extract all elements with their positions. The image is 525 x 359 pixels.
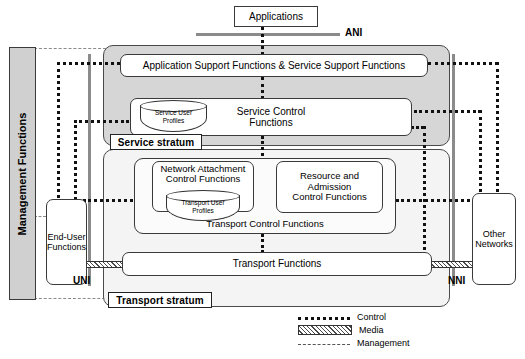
end-user-functions-label-line1: End-User	[47, 232, 86, 242]
ani-reference-line	[196, 33, 340, 36]
racf-label-line3: Control Functions	[292, 192, 366, 203]
applications-box[interactable]: Applications	[234, 6, 318, 27]
management-functions-box[interactable]: Management Functions	[9, 47, 36, 300]
applications-label: Applications	[249, 11, 303, 23]
management-line-swatch	[298, 344, 350, 345]
other-networks-box[interactable]: Other Networks	[472, 193, 516, 285]
legend-label-media: Media	[359, 325, 384, 335]
uni-label: UNI	[73, 275, 90, 286]
legend-label-management: Management	[357, 338, 410, 348]
legend-item-management: Management	[298, 336, 498, 349]
nni-label: NNI	[448, 275, 465, 286]
transport-functions-label: Transport Functions	[233, 258, 322, 270]
transport-functions-box[interactable]: Transport Functions	[122, 252, 432, 276]
end-user-functions-box[interactable]: End-User Functions	[46, 199, 87, 285]
service-user-profiles-line2: Profiles	[140, 117, 207, 125]
transport-stratum-tag-label: Transport stratum	[116, 295, 203, 306]
control-line-swatch	[298, 317, 350, 320]
transport-stratum-tag[interactable]: Transport stratum	[108, 292, 212, 308]
other-networks-label-line2: Networks	[475, 239, 513, 249]
control-path-support-to-service-control	[261, 77, 264, 99]
service-control-functions-label-line1: Service Control	[237, 106, 305, 118]
transport-user-profiles-cylinder[interactable]: Transport User Profiles	[166, 190, 240, 221]
control-path-service-control-left-down	[74, 120, 77, 205]
media-hatch-swatch	[298, 325, 352, 335]
transport-user-profiles-label: Transport User Profiles	[166, 199, 240, 215]
control-path-support-right	[428, 62, 498, 65]
transport-user-profiles-line1: Transport User	[166, 199, 240, 207]
application-support-functions-label: Application Support Functions & Service …	[143, 60, 405, 72]
control-path-transport-control-to-transport-functions	[261, 234, 264, 253]
application-support-functions-box[interactable]: Application Support Functions & Service …	[120, 54, 428, 77]
nacf-label-line2: Control Functions	[160, 174, 245, 185]
resource-admission-control-functions-box[interactable]: Resource and Admission Control Functions	[276, 161, 383, 213]
management-functions-label: Management Functions	[17, 112, 29, 235]
transport-user-profiles-line2: Profiles	[166, 207, 240, 215]
service-user-profiles-line1: Service User	[140, 109, 207, 117]
control-path-service-control-stub-down	[423, 126, 426, 256]
ani-label: ANI	[345, 27, 362, 38]
nni-reference-line	[452, 54, 455, 286]
control-path-service-control-right	[414, 110, 481, 113]
service-control-functions-label-line2: Functions	[237, 117, 305, 129]
legend-item-media: Media	[298, 323, 498, 336]
management-link-top	[34, 48, 106, 49]
control-path-applications-to-support	[261, 27, 264, 55]
other-networks-label-line1: Other	[475, 229, 513, 239]
transport-control-functions-label: Transport Control Functions	[134, 218, 396, 229]
end-user-functions-label-line2: Functions	[47, 242, 86, 252]
service-user-profiles-cylinder[interactable]: Service User Profiles	[140, 100, 207, 132]
diagram-canvas: Management Functions Applications ANI	[0, 0, 525, 359]
legend-item-control: Control	[298, 310, 498, 323]
service-user-profiles-label: Service User Profiles	[140, 109, 207, 125]
racf-label-line1: Resource and	[292, 171, 366, 182]
service-stratum-tag-label: Service stratum	[118, 137, 195, 148]
control-path-service-control-left	[74, 120, 129, 123]
legend-label-control: Control	[357, 312, 386, 322]
uni-reference-line	[88, 54, 91, 286]
service-stratum-tag[interactable]: Service stratum	[110, 134, 202, 150]
control-path-support-left	[57, 62, 126, 65]
control-path-support-left-down	[57, 62, 60, 205]
control-path-racf-right	[396, 199, 481, 202]
media-connector-nni	[430, 261, 475, 268]
legend: Control Media Management	[298, 310, 498, 349]
management-link-bottom	[34, 298, 110, 299]
